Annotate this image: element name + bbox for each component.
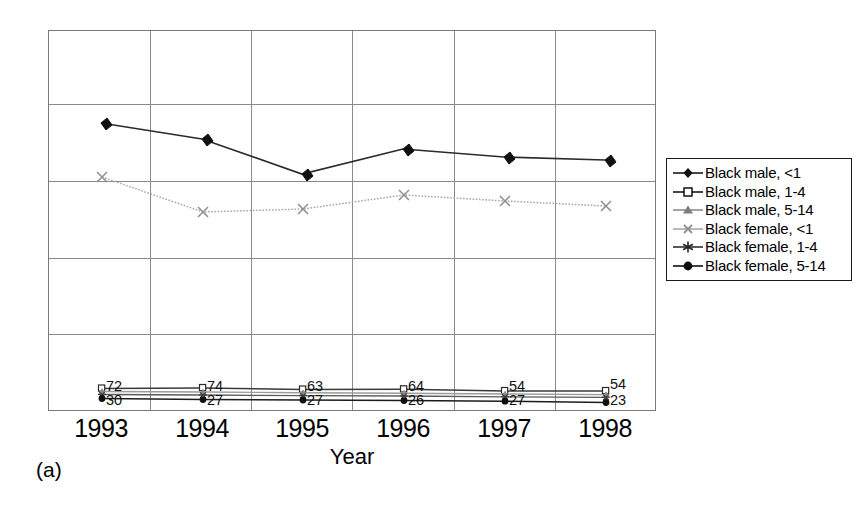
series-black-male-under-1 bbox=[101, 118, 616, 181]
point-label-upper-1998: 54 bbox=[610, 377, 626, 392]
chart-canvas bbox=[49, 31, 657, 412]
circle-filled-marker bbox=[671, 258, 705, 274]
legend-item-black-female-1-4[interactable]: Black female, 1-4 bbox=[671, 238, 847, 257]
legend-label: Black female, 1-4 bbox=[705, 239, 817, 255]
legend-label: Black female, <1 bbox=[705, 221, 813, 237]
point-label-lower-1994: 27 bbox=[207, 393, 223, 408]
legend-item-black-male-1-4[interactable]: Black male, 1-4 bbox=[671, 183, 847, 202]
triangle-marker bbox=[671, 202, 705, 218]
xaxis-tick-1998: 1998 bbox=[545, 414, 665, 443]
legend-label: Black female, 5-14 bbox=[705, 258, 826, 274]
square-open-marker bbox=[671, 184, 705, 200]
point-label-lower-1997: 27 bbox=[509, 393, 525, 408]
chart-legend: Black male, <1 Black male, 1-4 Black mal… bbox=[666, 158, 852, 281]
diamond-filled-marker bbox=[671, 165, 705, 181]
point-label-lower-1995: 27 bbox=[307, 393, 323, 408]
point-label-lower-1993: 30 bbox=[106, 393, 122, 408]
legend-item-black-male-under-1[interactable]: Black male, <1 bbox=[671, 164, 847, 183]
point-label-lower-1996: 26 bbox=[408, 393, 424, 408]
plot-area: 72 30 74 27 63 27 64 26 54 27 54 23 bbox=[48, 30, 656, 411]
asterisk-marker bbox=[671, 239, 705, 255]
series-black-female-under-1 bbox=[97, 172, 611, 217]
legend-label: Black male, 5-14 bbox=[705, 202, 814, 218]
legend-label: Black male, <1 bbox=[705, 165, 801, 181]
legend-item-black-female-under-1[interactable]: Black female, <1 bbox=[671, 220, 847, 239]
figure-panel-a: 72 30 74 27 63 27 64 26 54 27 54 23 1993… bbox=[0, 0, 865, 511]
point-label-lower-1998: 23 bbox=[610, 393, 626, 408]
cross-x-marker bbox=[671, 221, 705, 237]
legend-label: Black male, 1-4 bbox=[705, 184, 805, 200]
xaxis-title: Year bbox=[48, 444, 656, 470]
legend-item-black-female-5-14[interactable]: Black female, 5-14 bbox=[671, 257, 847, 276]
legend-item-black-male-5-14[interactable]: Black male, 5-14 bbox=[671, 201, 847, 220]
panel-caption: (a) bbox=[36, 458, 62, 482]
